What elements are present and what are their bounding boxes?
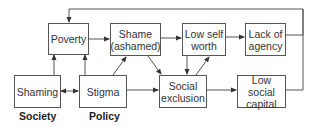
node-poverty: Poverty	[48, 23, 89, 55]
label-policy: Policy	[89, 110, 120, 122]
node-social-exclusion-text-1: Social	[169, 80, 198, 92]
node-shame-text-2: (ashamed)	[110, 40, 160, 52]
node-social-exclusion-text-2: exclusion	[161, 92, 205, 104]
node-low-self-worth-text-2: worth	[191, 40, 217, 52]
node-shame: Shame (ashamed)	[110, 23, 161, 56]
label-society: Society	[19, 110, 56, 122]
node-low-social-capital: Low social capital	[237, 75, 286, 108]
node-low-self-worth-text-1: Low self	[185, 28, 224, 40]
edge-social-exclusion-to-low-self-worth	[196, 57, 209, 75]
node-social-exclusion: Social exclusion	[159, 75, 207, 108]
node-lack-of-agency: Lack of agency	[245, 23, 286, 56]
node-lack-of-agency-text-1: Lack of	[249, 28, 283, 40]
node-low-social-capital-text-1: Low social	[238, 74, 285, 98]
edge-shame-to-social-exclusion	[148, 56, 161, 74]
node-stigma: Stigma	[79, 75, 127, 108]
node-shaming: Shaming	[14, 75, 61, 108]
node-low-social-capital-text-2: capital	[246, 98, 276, 110]
node-shaming-text: Shaming	[17, 86, 58, 98]
node-stigma-text: Stigma	[87, 86, 120, 98]
node-low-self-worth: Low self worth	[182, 23, 226, 56]
node-poverty-text: Poverty	[51, 33, 87, 45]
node-lack-of-agency-text-2: agency	[249, 40, 283, 52]
node-shame-text-1: Shame	[119, 28, 152, 40]
edge-stigma-to-shame	[113, 57, 126, 75]
